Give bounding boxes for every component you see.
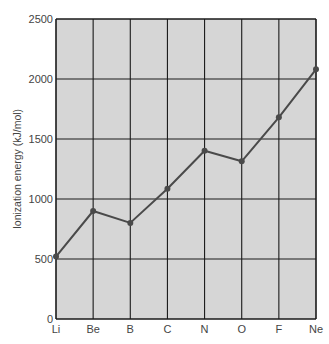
x-tick-label: N [201, 323, 209, 335]
ionization-energy-chart: 05001000150020002500 LiBeBCNOFNe Ionizat… [0, 0, 329, 344]
y-axis-label: Ionization energy (kJ/mol) [11, 109, 23, 229]
x-tick-label: Ne [309, 323, 323, 335]
x-tick-label: F [275, 323, 282, 335]
x-axis-ticks: LiBeBCNOFNe [52, 323, 323, 335]
y-tick-label: 2500 [29, 13, 53, 25]
data-point-marker [53, 254, 59, 260]
data-point-marker [313, 66, 319, 72]
data-point-marker [164, 186, 170, 192]
y-tick-label: 1000 [29, 193, 53, 205]
y-tick-label: 500 [35, 253, 53, 265]
data-point-marker [276, 114, 282, 120]
y-tick-label: 2000 [29, 73, 53, 85]
x-tick-label: O [237, 323, 246, 335]
y-tick-label: 1500 [29, 133, 53, 145]
data-point-marker [202, 148, 208, 154]
x-tick-label: C [163, 323, 171, 335]
y-axis-ticks: 05001000150020002500 [29, 13, 53, 325]
x-tick-label: Li [52, 323, 61, 335]
data-point-marker [239, 158, 245, 164]
x-tick-label: B [127, 323, 134, 335]
data-point-marker [127, 220, 133, 226]
data-point-marker [90, 208, 96, 214]
x-tick-label: Be [86, 323, 99, 335]
